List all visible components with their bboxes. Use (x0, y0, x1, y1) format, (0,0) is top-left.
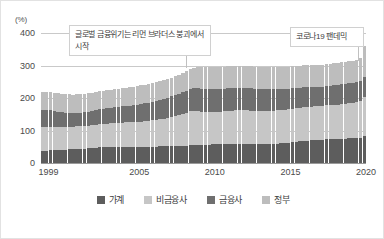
x-tick-label-1999: 1999 (39, 167, 59, 177)
legend-item-가계[interactable]: 가계 (97, 193, 124, 206)
legend-swatch-icon (97, 196, 105, 204)
legend-swatch-icon (207, 196, 215, 204)
x-tick-label-2010: 2010 (205, 167, 225, 177)
x-tick-label-2015: 2015 (280, 167, 300, 177)
legend-label: 가계 (109, 193, 124, 206)
y-tick-label-300: 300 (20, 61, 35, 71)
y-tick-label-200: 200 (20, 93, 35, 103)
y-tick-label-0: 0 (30, 158, 35, 168)
chart-figure: (%) 0100200300400 19992005201020152020 글… (0, 0, 384, 239)
legend-swatch-icon (144, 196, 152, 204)
x-axis-ticks: 19992005201020152020 (41, 167, 366, 183)
bar-segment-가계 (363, 136, 366, 163)
x-tick-label-2020: 2020 (356, 167, 376, 177)
x-axis-line (41, 163, 366, 164)
legend-label: 금융사 (219, 193, 242, 206)
legend-label: 비금융사 (156, 193, 187, 206)
y-tick-label-400: 400 (20, 28, 35, 38)
bar-2020Q2 (363, 46, 366, 163)
annotation-covid19-pandemic: 코로나19 팬데믹 (290, 27, 364, 47)
y-tick-label-100: 100 (20, 126, 35, 136)
bar-segment-비금융사 (363, 97, 366, 136)
legend-label: 정부 (274, 193, 289, 206)
bar-segment-정부 (363, 46, 366, 77)
bar-segment-금융사 (363, 77, 366, 97)
x-tick-label-2005: 2005 (129, 167, 149, 177)
legend-item-정부[interactable]: 정부 (262, 193, 289, 206)
y-axis-unit-label: (%) (15, 15, 27, 24)
legend-swatch-icon (262, 196, 270, 204)
legend-item-비금융사[interactable]: 비금융사 (144, 193, 187, 206)
annotation-global-financial-crisis: 글로벌 금융위기는 리먼 브라더스 붕괴에서 시작 (69, 25, 211, 56)
legend-item-금융사[interactable]: 금융사 (207, 193, 242, 206)
chart-legend: 가계비금융사금융사정부 (1, 193, 384, 206)
